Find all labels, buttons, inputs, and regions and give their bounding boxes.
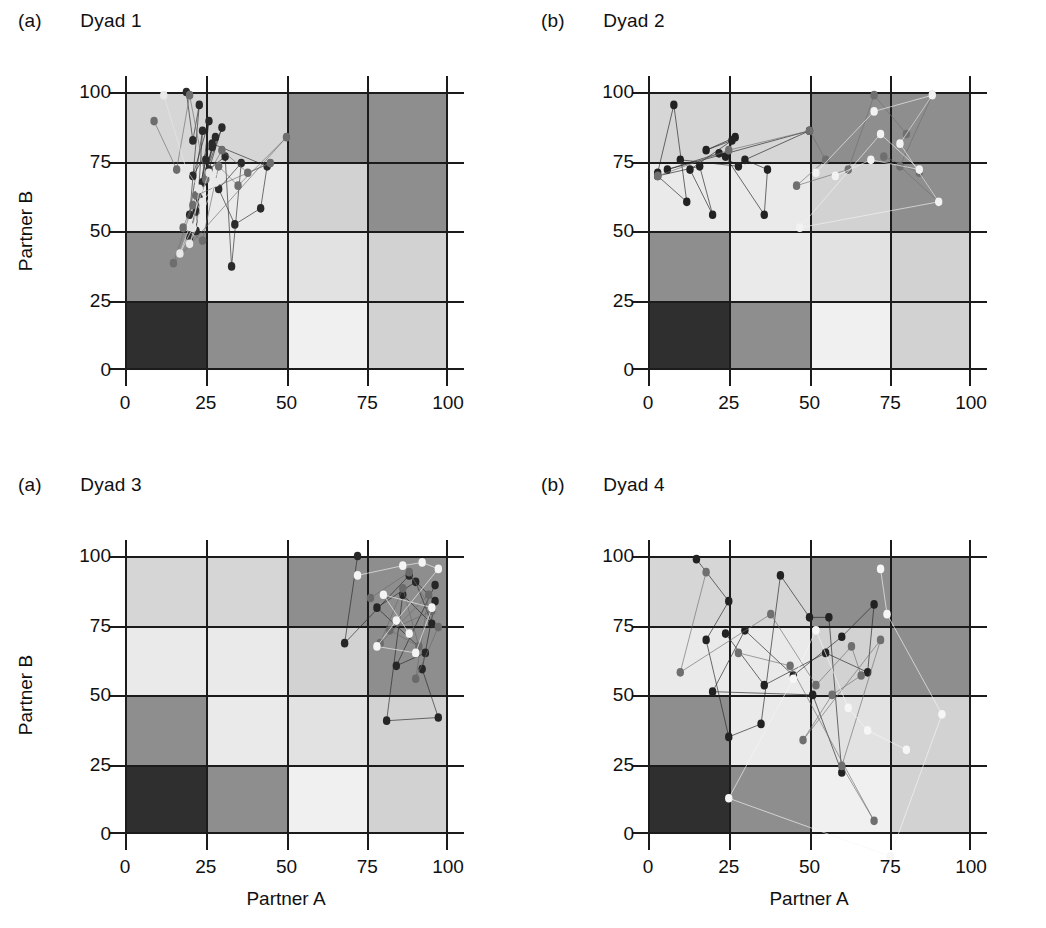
data-point — [825, 613, 832, 622]
data-point — [741, 155, 748, 164]
x-tick-label: 100 — [955, 392, 987, 414]
data-point — [725, 794, 732, 803]
data-point — [677, 155, 684, 164]
panel-header: (a) Dyad 1 — [18, 10, 498, 40]
data-point — [883, 610, 890, 619]
panel-header: (b) Dyad 2 — [541, 10, 1021, 40]
data-point — [867, 155, 874, 164]
data-point — [929, 91, 936, 100]
data-point — [828, 691, 835, 700]
data-point — [231, 220, 238, 229]
panel-tag: (a) — [18, 10, 42, 32]
data-point — [838, 632, 845, 641]
x-tick-label: 0 — [120, 392, 131, 414]
data-point — [425, 590, 432, 599]
data-point — [373, 642, 380, 651]
data-point — [199, 236, 206, 245]
data-traces — [648, 556, 971, 879]
trajectory-line — [729, 569, 942, 856]
panel-title: Dyad 3 — [80, 474, 141, 496]
data-point — [806, 613, 813, 622]
data-point — [399, 584, 406, 593]
data-point — [903, 745, 910, 754]
trajectory-line — [345, 556, 439, 721]
data-point — [935, 197, 942, 206]
data-point — [418, 558, 425, 567]
data-point — [806, 126, 813, 135]
data-point — [435, 623, 442, 632]
data-point — [199, 126, 206, 135]
data-point — [406, 629, 413, 638]
data-point — [208, 139, 215, 148]
data-point — [393, 661, 400, 670]
y-tick-label: 0 — [100, 359, 111, 381]
y-tick-label: 50 — [90, 220, 111, 242]
data-point — [796, 223, 803, 232]
data-point — [205, 168, 212, 177]
data-point — [670, 101, 677, 110]
y-tick-label: 75 — [90, 615, 111, 637]
panel-title: Dyad 2 — [603, 10, 664, 32]
data-point — [412, 674, 419, 683]
data-point — [380, 590, 387, 599]
data-point — [428, 619, 435, 628]
x-tick-label: 0 — [120, 856, 131, 878]
data-point — [412, 649, 419, 658]
data-point — [189, 223, 196, 232]
data-point — [838, 762, 845, 771]
data-point — [179, 223, 186, 232]
x-axis-label: Partner A — [769, 888, 848, 910]
data-point — [864, 726, 871, 735]
panel-header: (b) Dyad 4 — [541, 474, 1021, 504]
data-point — [702, 146, 709, 155]
data-point — [683, 197, 690, 206]
series-trajectory-dark — [183, 88, 271, 271]
trajectory-line — [696, 559, 874, 772]
x-tick-label: 25 — [195, 856, 216, 878]
series-trajectory-mid — [654, 91, 942, 206]
data-point — [435, 713, 442, 722]
data-point — [677, 668, 684, 677]
data-point — [257, 204, 264, 213]
data-point — [761, 681, 768, 690]
data-point — [176, 249, 183, 258]
data-point — [354, 552, 361, 561]
x-tick-label: 50 — [799, 856, 820, 878]
data-point — [205, 117, 212, 126]
x-tick-label: 50 — [276, 856, 297, 878]
data-point — [367, 594, 374, 603]
panel-tag: (b) — [541, 474, 565, 496]
x-tick-label: 75 — [357, 392, 378, 414]
series-trajectory-dark — [693, 555, 878, 777]
data-point — [757, 720, 764, 729]
data-point — [722, 629, 729, 638]
panel-dyad-1: (a) Dyad 1 Partner B 0255075100025507510… — [0, 0, 523, 464]
data-point — [916, 165, 923, 174]
data-point — [735, 649, 742, 658]
y-tick-label: 100 — [79, 545, 111, 567]
y-axis-label: Partner B — [15, 655, 37, 735]
data-point — [696, 162, 703, 171]
data-point — [702, 568, 709, 577]
x-tick-label: 100 — [432, 392, 464, 414]
data-point — [845, 165, 852, 174]
y-axis-label: Partner B — [15, 191, 37, 271]
panel-dyad-2: (b) Dyad 2 02550751000255075100 — [523, 0, 1046, 464]
series-trajectory-light — [354, 558, 442, 657]
data-point — [283, 133, 290, 142]
data-point — [832, 172, 839, 181]
data-point — [686, 165, 693, 174]
y-tick-label: 25 — [613, 290, 634, 312]
data-point — [812, 168, 819, 177]
y-tick-label: 75 — [90, 151, 111, 173]
data-point — [709, 210, 716, 219]
panel-header: (a) Dyad 3 — [18, 474, 498, 504]
x-tick-label: 25 — [195, 392, 216, 414]
x-tick-label: 75 — [880, 392, 901, 414]
data-point — [725, 733, 732, 742]
y-tick-label: 25 — [613, 754, 634, 776]
data-point — [150, 117, 157, 126]
y-tick-label: 75 — [613, 151, 634, 173]
panel-title: Dyad 4 — [603, 474, 664, 496]
data-point — [199, 197, 206, 206]
